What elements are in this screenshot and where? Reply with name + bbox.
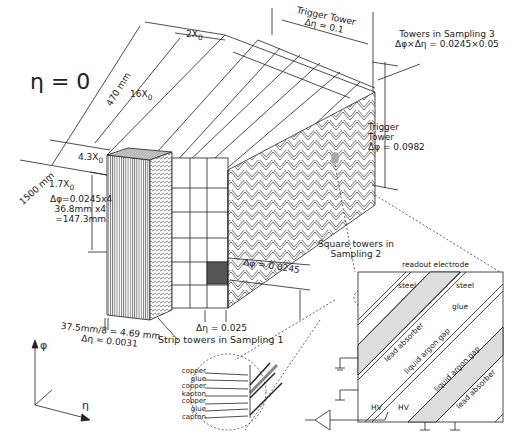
sampling1-label: Strip towers in Sampling 1 bbox=[158, 335, 284, 345]
hv-right-label: HV bbox=[398, 404, 409, 412]
sampling2-grid bbox=[172, 158, 228, 308]
trigger-tower-phi-label: Trigger Tower Δφ = 0.0982 bbox=[368, 123, 425, 153]
dim-1-7x0: 1.7X0 bbox=[49, 180, 74, 192]
steel-left-label: steel bbox=[398, 282, 416, 290]
glue-label: glue bbox=[452, 303, 468, 311]
hv-left-label: HV bbox=[371, 404, 382, 412]
sampling2-label: Square towers in Sampling 2 bbox=[318, 240, 394, 260]
dim-2x0: 2X0 bbox=[186, 30, 203, 42]
sampling3-label: Towers in Sampling 3 Δφ×Δη = 0.0245×0.05 bbox=[395, 30, 499, 50]
strip-phi-label: Δφ=0.0245x4 36.8mm x4 =147.3mm bbox=[50, 195, 106, 225]
phi-axis-label: φ bbox=[40, 340, 47, 352]
dim-4-3x0: 4.3X0 bbox=[78, 153, 103, 165]
electrode-layers-list: copper glue copper kapton copper glue ca… bbox=[168, 368, 206, 421]
steel-right-label: steel bbox=[456, 282, 474, 290]
eta-axis-label: η bbox=[82, 400, 89, 412]
calorimeter-diagram: η = 0 1500 mm 470 mm 2X0 16X0 4.3X0 1.7X… bbox=[0, 0, 512, 438]
delta-eta-sampling2-label: Δη = 0.025 bbox=[196, 324, 247, 334]
readout-electrode-label: readout electrode bbox=[402, 261, 469, 269]
dim-16x0: 16X0 bbox=[130, 90, 152, 102]
strip-towers-front bbox=[107, 155, 150, 320]
eta-zero-title: η = 0 bbox=[30, 70, 90, 94]
